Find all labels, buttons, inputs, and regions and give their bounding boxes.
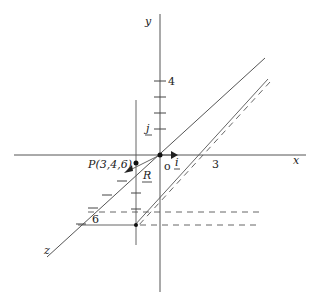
z-axis-ticks	[76, 181, 127, 224]
origin-label: o	[164, 160, 171, 173]
z-axis-label: z	[43, 244, 50, 257]
point-p-label: P(3,4,6)	[87, 158, 132, 171]
svg-text:i: i	[175, 156, 179, 169]
origin-point	[158, 153, 163, 158]
point-foot	[134, 223, 138, 227]
svg-text:j: j	[143, 122, 150, 135]
x-axis-label: x	[293, 154, 300, 167]
vector-r-label: R	[142, 169, 152, 182]
point-p	[134, 161, 139, 166]
x-tick-label-3: 3	[212, 158, 219, 171]
y-axis-label: y	[144, 15, 152, 28]
z-tick-label-6: 6	[92, 213, 99, 226]
parallel-line-outer	[134, 79, 268, 226]
y-tick-label-4: 4	[168, 75, 175, 88]
unit-vector-j-label: j	[143, 122, 152, 135]
diagram-canvas: y x z o 4 3 6 j i P(3,4,6) R	[0, 0, 321, 305]
axes-diagram: y x z o 4 3 6 j i P(3,4,6) R	[0, 0, 321, 305]
svg-text:R: R	[142, 169, 151, 182]
unit-vector-i-label: i	[174, 156, 180, 169]
